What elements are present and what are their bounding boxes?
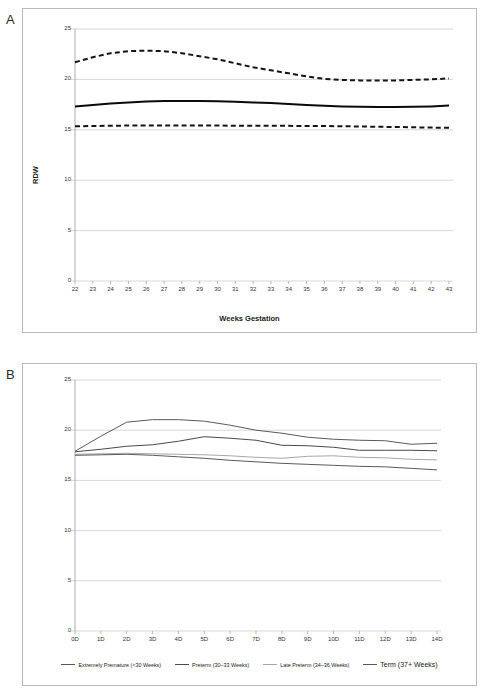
panel-a-y-axis-title: RDW xyxy=(31,166,40,184)
y-tick-label: 5 xyxy=(49,227,71,233)
y-tick-label: 10 xyxy=(49,527,71,533)
y-tick-label: 15 xyxy=(49,476,71,482)
series-line xyxy=(75,454,437,470)
legend-item[interactable]: Extremely Premature (<30 Weeks) xyxy=(61,662,161,668)
x-tick-label: 12D xyxy=(373,636,397,642)
y-tick-label: 0 xyxy=(49,627,71,633)
x-tick-label: 3D xyxy=(141,636,165,642)
y-tick-label: 20 xyxy=(49,426,71,432)
y-tick-label: 15 xyxy=(49,126,71,132)
legend-label: Extremely Premature (<30 Weeks) xyxy=(78,662,161,668)
x-tick-label: 6D xyxy=(218,636,242,642)
x-tick-label: 2D xyxy=(115,636,139,642)
panel-b-border: Extremely Premature (<30 Weeks)Preterm (… xyxy=(22,363,477,686)
x-tick-label: 0D xyxy=(63,636,87,642)
y-tick-label: 20 xyxy=(49,75,71,81)
legend-item[interactable]: Late Preterm (34–36 Weeks) xyxy=(263,662,349,668)
legend-line-icon xyxy=(363,664,377,665)
panel-b-letter: B xyxy=(6,367,15,382)
legend-label: Term (37+ Weeks) xyxy=(380,661,437,668)
x-tick-label: 14D xyxy=(425,636,449,642)
x-tick-label: 7D xyxy=(244,636,268,642)
x-tick-label: 5D xyxy=(192,636,216,642)
series-line xyxy=(75,125,449,127)
legend-label: Late Preterm (34–36 Weeks) xyxy=(280,662,349,668)
panel-a-plot-area xyxy=(61,23,461,291)
x-tick-label: 8D xyxy=(270,636,294,642)
legend-item[interactable]: Term (37+ Weeks) xyxy=(363,661,437,668)
x-tick-label: 1D xyxy=(89,636,113,642)
x-tick-label: 13D xyxy=(399,636,423,642)
legend-line-icon xyxy=(61,664,75,665)
panel-b-plot-area xyxy=(51,374,459,641)
figure-container: A RDW Weeks Gestation 051015202522232425… xyxy=(0,0,485,695)
series-line xyxy=(75,51,449,81)
legend-item[interactable]: Preterm (30–33 Weeks) xyxy=(175,662,249,668)
y-tick-label: 25 xyxy=(49,376,71,382)
panel-b-legend: Extremely Premature (<30 Weeks)Preterm (… xyxy=(23,661,476,668)
series-line xyxy=(75,101,449,107)
series-line xyxy=(75,437,437,452)
x-tick-label: 9D xyxy=(296,636,320,642)
x-tick-label: 10D xyxy=(322,636,346,642)
y-tick-label: 10 xyxy=(49,176,71,182)
panel-a-border: RDW Weeks Gestation 05101520252223242526… xyxy=(22,8,477,333)
x-tick-label: 4D xyxy=(166,636,190,642)
x-tick-label: 11D xyxy=(347,636,371,642)
y-tick-label: 25 xyxy=(49,25,71,31)
panel-a-x-axis-title: Weeks Gestation xyxy=(23,314,476,323)
x-tick-label: 43 xyxy=(437,286,461,292)
y-tick-label: 0 xyxy=(49,277,71,283)
legend-line-icon xyxy=(175,664,189,665)
legend-line-icon xyxy=(263,664,277,665)
y-tick-label: 5 xyxy=(49,577,71,583)
panel-a-letter: A xyxy=(6,12,15,27)
legend-label: Preterm (30–33 Weeks) xyxy=(192,662,249,668)
chart-svg-a xyxy=(61,23,461,291)
chart-svg-b xyxy=(51,374,459,641)
